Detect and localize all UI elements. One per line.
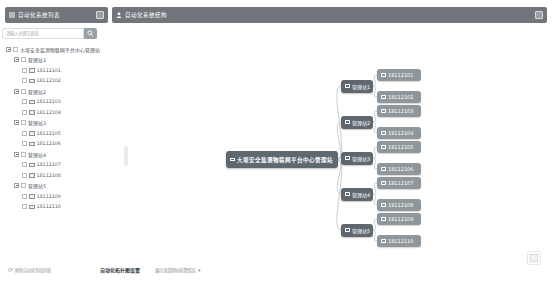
device-icon bbox=[381, 181, 386, 185]
minimap-toggle-button[interactable] bbox=[527, 251, 541, 265]
diagram-leaf-node[interactable]: 18112105 bbox=[377, 141, 421, 153]
station-icon bbox=[230, 158, 235, 162]
diagram-leaf-node[interactable]: 18112108 bbox=[377, 199, 421, 211]
diagram-node-label: 管理站4 bbox=[352, 191, 370, 198]
diagram-leaf-node[interactable]: 18112102 bbox=[377, 91, 421, 103]
station-icon bbox=[345, 120, 350, 124]
diagram-node-label: 18112106 bbox=[388, 166, 413, 172]
topology-settings-label: 自动化拓扑图设置 bbox=[100, 266, 140, 273]
footer-bar: ⟳ 刷新自动化系统列表 自动化拓扑图设置 展示全部测站布置情况 ▾ bbox=[0, 262, 552, 282]
device-icon bbox=[381, 167, 386, 171]
diagram-leaf-node[interactable]: 18112106 bbox=[377, 163, 421, 175]
diagram-branch-node[interactable]: 管理站2 bbox=[341, 116, 373, 129]
diagram-node-label: 18112103 bbox=[388, 108, 413, 114]
diagram-node-label: 18112104 bbox=[388, 130, 413, 136]
diagram-node-label: 18112110 bbox=[388, 238, 413, 244]
station-icon bbox=[345, 228, 350, 232]
diagram-leaf-node[interactable]: 18112109 bbox=[377, 213, 421, 225]
device-icon bbox=[381, 73, 386, 77]
device-icon bbox=[381, 203, 386, 207]
diagram-node-label: 管理站1 bbox=[352, 83, 370, 90]
diagram-node-label: 18112101 bbox=[388, 72, 413, 78]
device-icon bbox=[381, 95, 386, 99]
diagram-node-label: 管理站5 bbox=[352, 227, 370, 234]
refresh-tree-button[interactable]: ⟳ 刷新自动化系统列表 bbox=[8, 267, 51, 273]
device-icon bbox=[381, 109, 386, 113]
diagram-node-label: 管理站3 bbox=[352, 155, 370, 162]
diagram-branch-node[interactable]: 管理站5 bbox=[341, 224, 373, 237]
refresh-label: 刷新自动化系统列表 bbox=[15, 267, 51, 273]
refresh-icon: ⟳ bbox=[8, 267, 13, 273]
diagram-leaf-node[interactable]: 18112101 bbox=[377, 69, 421, 81]
device-icon bbox=[381, 131, 386, 135]
diagram-leaf-node[interactable]: 18112104 bbox=[377, 127, 421, 139]
diagram-leaf-node[interactable]: 18112103 bbox=[377, 105, 421, 117]
device-icon bbox=[381, 217, 386, 221]
device-icon bbox=[381, 145, 386, 149]
device-icon bbox=[381, 239, 386, 243]
display-option-select[interactable]: 展示全部测站布置情况 ▾ bbox=[155, 267, 201, 273]
diagram-branch-node[interactable]: 管理站4 bbox=[341, 188, 373, 201]
station-icon bbox=[345, 192, 350, 196]
minimap-icon bbox=[530, 254, 538, 262]
diagram-root-node[interactable]: 大坝安全监测物联网平台中心管理站 bbox=[226, 151, 338, 168]
diagram-node-label: 18112102 bbox=[388, 94, 413, 100]
diagram-branch-node[interactable]: 管理站1 bbox=[341, 80, 373, 93]
station-icon bbox=[345, 84, 350, 88]
topology-connectors bbox=[0, 0, 552, 288]
diagram-node-label: 大坝安全监测物联网平台中心管理站 bbox=[237, 156, 333, 164]
diagram-node-label: 18112107 bbox=[388, 180, 413, 186]
display-option-value: 展示全部测站布置情况 bbox=[155, 267, 195, 273]
diagram-leaf-node[interactable]: 18112107 bbox=[377, 177, 421, 189]
diagram-node-label: 18112105 bbox=[388, 144, 413, 150]
diagram-node-label: 18112108 bbox=[388, 202, 413, 208]
diagram-branch-node[interactable]: 管理站3 bbox=[341, 152, 373, 165]
diagram-node-label: 18112109 bbox=[388, 216, 413, 222]
diagram-node-label: 管理站2 bbox=[352, 119, 370, 126]
diagram-leaf-node[interactable]: 18112110 bbox=[377, 235, 421, 247]
chevron-down-icon: ▾ bbox=[198, 267, 201, 273]
station-icon bbox=[345, 156, 350, 160]
